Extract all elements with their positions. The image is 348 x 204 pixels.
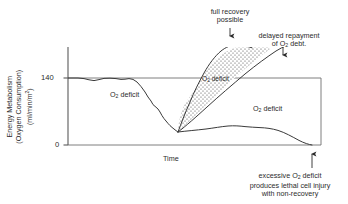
label-o2-deficit-wedge: O2 deficit	[202, 75, 229, 85]
y-axis-label: Energy Metabolism (Oxygen Consumption) (…	[5, 59, 34, 155]
o2-deficit-wedge-lower	[178, 48, 270, 133]
y-axis-label-exponent: 2	[24, 91, 30, 94]
lethal-line3: with non-recovery	[262, 189, 319, 198]
y-axis-label-line1: Energy Metabolism	[5, 76, 14, 138]
baseline-decline-curve	[68, 78, 178, 132]
y-tick-140: 140	[41, 73, 54, 82]
delayed-repayment-line2: of O2 debt.	[272, 39, 306, 48]
annotation-full-recovery: full recovery possible	[199, 8, 261, 25]
y-axis-label-line3: (ml/min/m2)	[26, 88, 35, 125]
label-o2-deficit-left: O2 deficit	[110, 91, 139, 101]
y-tick-0: 0	[55, 140, 59, 149]
oxygen-debt-diagram: Energy Metabolism (Oxygen Consumption) (…	[0, 0, 348, 204]
annotation-delayed-repayment: delayed repayment of O2 debt.	[237, 32, 341, 50]
lethal-line1: excessive O2 deficit	[259, 171, 322, 180]
annotation-lethal-injury: excessive O2 deficit produces lethal cel…	[234, 172, 346, 198]
non-recovery-curve	[178, 126, 312, 145]
x-axis-label: Time	[163, 155, 179, 163]
full-recovery-line2: possible	[217, 15, 243, 24]
y-axis	[64, 47, 69, 145]
label-o2-deficit-right: O2 deficit	[253, 105, 282, 115]
y-axis-label-line2: (Oxygen Consumption)	[14, 70, 23, 144]
